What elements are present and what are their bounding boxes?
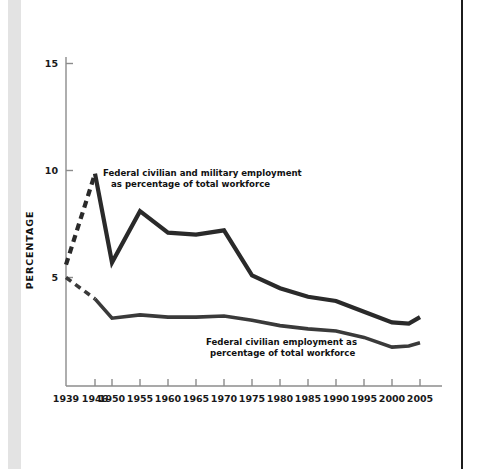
x-tick-label-1970: 1970 (211, 393, 238, 404)
x-tick-label-1960: 1960 (155, 393, 182, 404)
x-axis-ticks (95, 379, 420, 386)
lower-series-annotation-line1: Federal civilian employment as (206, 337, 357, 347)
x-tick-label-1950: 1950 (99, 393, 126, 404)
y-tick-label-15: 15 (45, 58, 58, 69)
x-tick-label-1955: 1955 (127, 393, 153, 404)
y-tick-label-10: 10 (45, 165, 59, 176)
upper-series-annotation-line1: Federal civilian and military employment (103, 168, 302, 178)
x-tick-label-1939: 1939 (53, 393, 79, 404)
upper-series-dashed-segment (66, 174, 95, 265)
x-tick-label-1975: 1975 (239, 393, 265, 404)
chart-svg: 15 10 5 PERCENTAGE 19 (0, 0, 479, 469)
x-tick-label-1965: 1965 (183, 393, 209, 404)
x-tick-label-2000: 2000 (379, 393, 406, 404)
y-axis-title: PERCENTAGE (24, 211, 35, 290)
x-tick-label-1980: 1980 (267, 393, 294, 404)
x-tick-label-1995: 1995 (351, 393, 377, 404)
lower-series-annotation-line2: percentage of total workforce (210, 348, 355, 358)
y-tick-label-5: 5 (51, 272, 58, 283)
upper-series-line (95, 174, 420, 324)
x-tick-label-1985: 1985 (295, 393, 321, 404)
chart-page: 15 10 5 PERCENTAGE 19 (0, 0, 479, 469)
y-axis-ticks (66, 64, 73, 278)
x-tick-label-2005: 2005 (407, 393, 433, 404)
line-chart: 15 10 5 PERCENTAGE 19 (0, 0, 479, 469)
upper-series-annotation-line2: as percentage of total workforce (111, 179, 270, 189)
lower-series-dashed-segment (66, 278, 95, 299)
x-tick-label-1990: 1990 (323, 393, 350, 404)
